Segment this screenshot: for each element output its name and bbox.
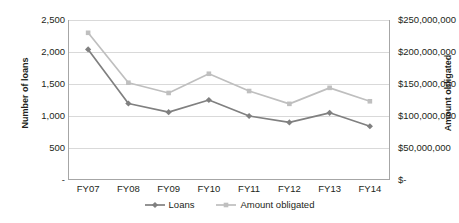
y-axis-right-ticks: $-$50,000,000$100,000,000$150,000,000$20…	[398, 0, 459, 223]
gridlines	[68, 20, 390, 180]
data-point-marker	[247, 89, 252, 94]
plot-svg	[68, 20, 390, 180]
y-axis-left-tick-label: -	[62, 175, 65, 185]
data-point-marker	[246, 113, 252, 119]
data-point-marker	[327, 110, 333, 116]
series-amount-obligated	[86, 31, 372, 107]
data-point-marker	[126, 80, 131, 85]
x-axis-tick-label: FY09	[157, 183, 180, 194]
y-axis-right-tick-label: $-	[398, 175, 406, 185]
plot-area	[68, 20, 390, 180]
legend-item[interactable]: Amount obligated	[216, 199, 314, 210]
chart-legend: LoansAmount obligated	[0, 199, 459, 210]
line-chart: Number of loans Amount obligated -5001,0…	[0, 0, 459, 223]
y-axis-left-ticks: -5001,0001,5002,0002,500	[10, 0, 65, 223]
data-point-marker	[286, 119, 292, 125]
y-axis-left-tick-label: 500	[49, 143, 65, 153]
legend-label: Loans	[169, 199, 195, 210]
y-axis-right-tick-label: $250,000,000	[398, 15, 456, 25]
y-axis-left-tick-label: 1,000	[41, 111, 65, 121]
data-point-marker	[166, 109, 172, 115]
y-axis-left-tick-label: 2,500	[41, 15, 65, 25]
y-axis-right-tick-label: $150,000,000	[398, 79, 456, 89]
legend-square-icon	[216, 200, 236, 210]
data-point-marker	[224, 202, 229, 207]
legend-label: Amount obligated	[240, 199, 314, 210]
data-point-marker	[151, 201, 157, 207]
legend-item[interactable]: Loans	[145, 199, 195, 210]
legend-diamond-icon	[145, 200, 165, 210]
y-axis-right-tick-label: $100,000,000	[398, 111, 456, 121]
y-axis-left-tick-label: 2,000	[41, 47, 65, 57]
data-point-marker	[207, 71, 212, 76]
y-axis-left-tick-label: 1,500	[41, 79, 65, 89]
y-axis-right-tick-label: $200,000,000	[398, 47, 456, 57]
data-point-marker	[367, 123, 373, 129]
x-axis-ticks: FY07FY08FY09FY10FY11FY12FY13FY14	[68, 183, 390, 197]
x-axis-tick-label: FY10	[198, 183, 221, 194]
x-axis-tick-label: FY07	[77, 183, 100, 194]
series-line	[88, 33, 370, 104]
data-point-marker	[166, 91, 171, 96]
x-axis-tick-label: FY12	[278, 183, 301, 194]
data-point-marker	[86, 31, 91, 36]
data-point-marker	[287, 102, 292, 107]
data-point-marker	[368, 99, 373, 104]
y-axis-right-tick-label: $50,000,000	[398, 143, 451, 153]
x-axis-tick-label: FY14	[359, 183, 382, 194]
data-point-marker	[206, 97, 212, 103]
data-point-marker	[327, 86, 332, 91]
x-axis-tick-label: FY13	[318, 183, 341, 194]
x-axis-tick-label: FY08	[117, 183, 140, 194]
x-axis-tick-label: FY11	[238, 183, 260, 194]
